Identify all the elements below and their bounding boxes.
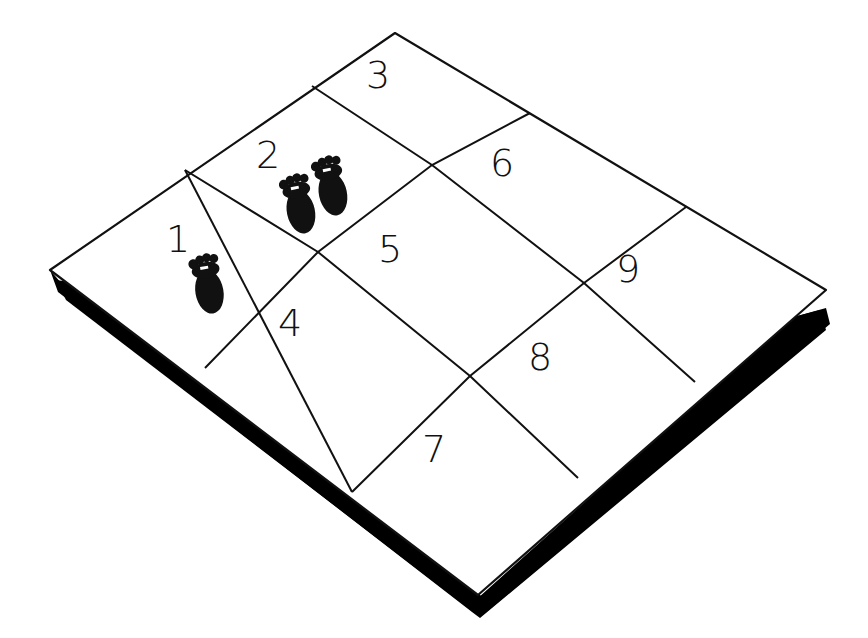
mat-surface xyxy=(50,33,826,595)
square-number-1: 1 xyxy=(166,217,190,261)
square-number-9: 9 xyxy=(616,247,640,291)
square-number-7: 7 xyxy=(422,427,446,471)
square-number-2: 2 xyxy=(256,133,280,177)
square-number-3: 3 xyxy=(366,53,390,97)
square-number-4: 4 xyxy=(278,301,302,345)
square-number-8: 8 xyxy=(528,335,552,379)
square-number-6: 6 xyxy=(490,141,514,185)
grid-mat-illustration: 1 2 3 4 5 6 7 8 9 xyxy=(0,0,868,638)
square-number-5: 5 xyxy=(378,227,402,271)
